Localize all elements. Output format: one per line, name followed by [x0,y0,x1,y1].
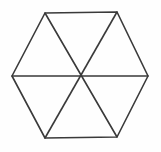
hexagon-figure: Regular hexagon divided into six triangl… [0,0,161,152]
hexagon-diagram-svg [0,0,161,152]
